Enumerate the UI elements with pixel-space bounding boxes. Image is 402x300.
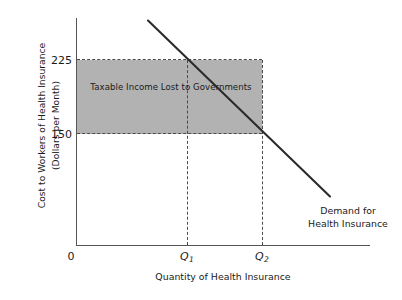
y-axis-title-line2: (Dollars per Month) (48, 16, 62, 236)
q1-letter: Q (180, 250, 189, 263)
x-tick-label-q2: Q2 (242, 250, 282, 264)
q2-subscript: 2 (264, 255, 269, 264)
y-axis-title-line1: Cost to Workers of Health Insurance (35, 16, 49, 236)
demand-curve-label: Demand for Health Insurance (300, 205, 396, 230)
x-tick-label-origin: 0 (62, 250, 80, 263)
demand-curve-label-line2: Health Insurance (300, 218, 396, 231)
x-axis-line (76, 245, 370, 246)
y-axis-title: Cost to Workers of Health Insurance (Dol… (35, 16, 62, 236)
q2-letter: Q (255, 250, 264, 263)
x-tick-label-q1: Q1 (167, 250, 207, 264)
x-axis-title: Quantity of Health Insurance (76, 271, 370, 282)
y-axis-line (76, 18, 77, 246)
q1-subscript: 1 (189, 255, 194, 264)
chart-figure: Taxable Income Lost to Governments 225 1… (0, 0, 402, 300)
demand-curve-label-line1: Demand for (300, 205, 396, 218)
